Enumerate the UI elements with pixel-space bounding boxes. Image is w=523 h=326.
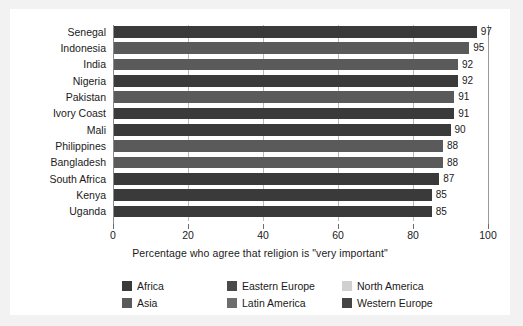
bar-uganda	[113, 206, 432, 218]
legend-label: Latin America	[242, 297, 306, 309]
y-axis-line	[113, 25, 114, 224]
legend-item-asia[interactable]: Asia	[122, 297, 227, 309]
y-axis-label-uganda: Uganda	[69, 205, 106, 218]
legend-item-eastern-europe[interactable]: Eastern Europe	[227, 280, 342, 292]
bar-value-label: 88	[447, 139, 458, 152]
bar-senegal	[113, 26, 477, 38]
legend-swatch-icon	[227, 281, 237, 291]
bar-value-label: 95	[473, 41, 484, 54]
legend-label: North America	[357, 280, 424, 292]
legend-swatch-icon	[122, 298, 132, 308]
plot-area: 979592929191908888878585	[113, 25, 488, 221]
x-axis: 020406080100	[113, 224, 493, 242]
x-tick-label-20: 20	[182, 229, 194, 242]
bar-indonesia	[113, 42, 469, 54]
bar-row: 97	[113, 25, 488, 40]
bar-nigeria	[113, 75, 458, 87]
y-axis-label-indonesia: Indonesia	[60, 42, 106, 55]
bar-value-label: 92	[462, 74, 473, 87]
bar-value-label: 88	[447, 156, 458, 169]
legend-item-africa[interactable]: Africa	[122, 280, 227, 292]
x-tick-label-80: 80	[407, 229, 419, 242]
bar-row: 85	[113, 205, 488, 220]
y-axis-label-philippines: Philippines	[55, 140, 106, 153]
y-axis-label-bangladesh: Bangladesh	[51, 156, 106, 169]
legend: AfricaAsiaEastern EuropeLatin AmericaNor…	[122, 277, 452, 311]
bar-row: 87	[113, 172, 488, 187]
legend-swatch-icon	[227, 298, 237, 308]
bar-value-label: 87	[443, 172, 454, 185]
bar-row: 88	[113, 156, 488, 171]
bar-philippines	[113, 140, 443, 152]
bar-mali	[113, 124, 451, 136]
legend-item-latin-america[interactable]: Latin America	[227, 297, 342, 309]
y-axis-label-kenya: Kenya	[76, 189, 106, 202]
chart-card: SenegalIndonesiaIndiaNigeriaPakistanIvor…	[10, 9, 510, 315]
legend-item-western-europe[interactable]: Western Europe	[342, 297, 452, 309]
x-tick-label-40: 40	[257, 229, 269, 242]
legend-item-north-america[interactable]: North America	[342, 280, 452, 292]
bar-value-label: 92	[462, 58, 473, 71]
legend-label: Western Europe	[357, 297, 433, 309]
bar-pakistan	[113, 91, 454, 103]
x-axis-title: Percentage who agree that religion is "v…	[10, 247, 510, 259]
bar-value-label: 91	[458, 90, 469, 103]
y-axis-label-mali: Mali	[87, 124, 106, 137]
bar-row: 92	[113, 58, 488, 73]
bar-value-label: 85	[436, 205, 447, 218]
bar-row: 95	[113, 41, 488, 56]
bar-bangladesh	[113, 157, 443, 169]
bar-value-label: 91	[458, 107, 469, 120]
gridline-100	[488, 25, 489, 224]
bar-row: 92	[113, 74, 488, 89]
legend-label: Asia	[137, 297, 157, 309]
x-tick-label-100: 100	[479, 229, 497, 242]
bar-row: 90	[113, 123, 488, 138]
y-axis-label-ivory-coast: Ivory Coast	[53, 107, 106, 120]
y-axis-labels: SenegalIndonesiaIndiaNigeriaPakistanIvor…	[10, 25, 106, 221]
bar-value-label: 85	[436, 188, 447, 201]
y-axis-label-pakistan: Pakistan	[66, 91, 106, 104]
bar-row: 91	[113, 90, 488, 105]
bar-ivory-coast	[113, 108, 454, 120]
y-axis-label-nigeria: Nigeria	[73, 75, 106, 88]
x-tick-label-60: 60	[332, 229, 344, 242]
bar-kenya	[113, 189, 432, 201]
bar-india	[113, 59, 458, 71]
x-tick-label-0: 0	[110, 229, 116, 242]
legend-swatch-icon	[342, 281, 352, 291]
legend-label: Africa	[137, 280, 164, 292]
legend-swatch-icon	[122, 281, 132, 291]
bar-row: 91	[113, 107, 488, 122]
bar-value-label: 97	[481, 25, 492, 38]
bar-row: 88	[113, 139, 488, 154]
legend-label: Eastern Europe	[242, 280, 315, 292]
y-axis-label-senegal: Senegal	[67, 26, 106, 39]
bar-row: 85	[113, 188, 488, 203]
y-axis-label-south-africa: South Africa	[49, 173, 106, 186]
y-axis-label-india: India	[83, 58, 106, 71]
legend-swatch-icon	[342, 298, 352, 308]
bar-south-africa	[113, 173, 439, 185]
bar-value-label: 90	[455, 123, 466, 136]
